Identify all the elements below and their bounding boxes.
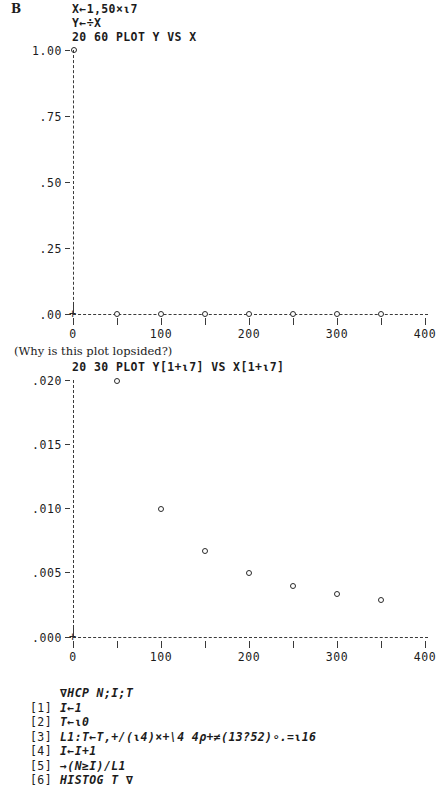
- plot-1-data-point: [334, 311, 340, 317]
- plot-1-ytick-.50: [65, 182, 70, 183]
- plot-1-xlabel-400: 400: [414, 327, 437, 341]
- plot-2-data-point: [158, 506, 164, 512]
- plot-2-data-point: [334, 591, 340, 597]
- plot-1-xtick-350: [381, 318, 382, 325]
- plot-1-data-point: [114, 311, 120, 317]
- plot-2-ylabel-.005: .005: [16, 566, 62, 580]
- plot-2-xtick-250: [293, 641, 294, 648]
- plot-1-ylabel-.50: .50: [16, 176, 62, 190]
- plot-1-ytick-1.00: [65, 50, 70, 51]
- plot-2-xtick-50: [117, 641, 118, 648]
- plot-1-data-point: [246, 311, 252, 317]
- plot-1-ylabel-1.00: 1.00: [16, 44, 62, 58]
- function-header-code: ∇HCP N;I;T: [60, 686, 133, 700]
- function-header-row: ∇HCP N;I;T: [0, 686, 440, 701]
- plot-2-ylabel-.010: .010: [16, 502, 62, 516]
- plot-2-data-point: [378, 597, 384, 603]
- plot-1-ylabel-.25: .25: [16, 242, 62, 256]
- function-line-code: HISTOG T ∇: [60, 773, 133, 787]
- function-line-row: [5] →(N≥I)/L1: [0, 759, 440, 774]
- function-line-code: I←I+1: [60, 744, 97, 758]
- plot-2-xtick-0: [73, 641, 74, 648]
- plot-2-xtick-350: [381, 641, 382, 648]
- plot-1-data-point: [290, 311, 296, 317]
- plot-1-ytick-.25: [65, 248, 70, 249]
- plot-2-ytick-.015: [65, 444, 70, 445]
- plot-2-data-point: [114, 378, 120, 384]
- function-line-number: [4]: [0, 744, 60, 758]
- plot-1-xlabel-200: 200: [238, 327, 261, 341]
- plot-1-xtick-origin-upper: [73, 303, 74, 312]
- apl-function-listing: ∇HCP N;I;T [1] I←1 [2] T←⍳0 [3] L1:T←T,+…: [0, 686, 440, 788]
- apl-plot-command-1: 20 60 PLOT Y VS X: [72, 30, 197, 44]
- plot-2-data-point: [202, 548, 208, 554]
- plot-2-xlabel-100: 100: [150, 650, 173, 664]
- plot-2-xlabel-300: 300: [326, 650, 349, 664]
- function-line-row: [1] I←1: [0, 701, 440, 716]
- plot-2-data-point: [290, 583, 296, 589]
- function-line-row: [6] HISTOG T ∇: [0, 773, 440, 788]
- plot-2-ytick-.020: [65, 380, 70, 381]
- plot-2-xtick-150: [205, 641, 206, 648]
- plot-2-xtick-100: [161, 641, 162, 648]
- plot-1-xtick-400: [425, 318, 426, 325]
- plot-1-data-point: [158, 311, 164, 317]
- plot-1-xtick-100: [161, 318, 162, 325]
- function-line-row: [4] I←I+1: [0, 744, 440, 759]
- plot-1-ylabel-.75: .75: [16, 110, 62, 124]
- plot-2-ylabel-.000: .000: [16, 631, 62, 645]
- plot-2-xtick-400: [425, 641, 426, 648]
- plot-1-xtick-0: [73, 318, 74, 325]
- function-line-code: →(N≥I)/L1: [60, 759, 126, 773]
- plot-2-ylabel-.015: .015: [16, 438, 62, 452]
- function-line-code: T←⍳0: [60, 715, 89, 729]
- plot-2-xlabel-0: 0: [69, 650, 77, 664]
- plot-1-xtick-50: [117, 318, 118, 325]
- apl-input-line-2: Y←÷X: [72, 16, 101, 30]
- function-line-row: [2] T←⍳0: [0, 715, 440, 730]
- page-marker: B: [11, 2, 21, 16]
- plot-2-xtick-origin-upper: [73, 626, 74, 635]
- function-line-number: [6]: [0, 773, 60, 787]
- plot-1-xtick-250: [293, 318, 294, 325]
- plot-1-data-point: [71, 47, 77, 53]
- plot-2-xtick-200: [249, 641, 250, 648]
- function-line-row: [3] L1:T←T,+/(⍳4)×+\4 4ρ+≠(13?52)∘.=⍳16: [0, 730, 440, 745]
- plot-2-ylabel-.020: .020: [16, 374, 62, 388]
- plot-2-y-axis: [73, 380, 74, 638]
- plot-1-ylabel-.00: .00: [16, 308, 62, 322]
- plot-2-ytick-.010: [65, 508, 70, 509]
- plot-1-ytick-.75: [65, 116, 70, 117]
- apl-plot-command-2: 20 30 PLOT Y[1+⍳7] VS X[1+⍳7]: [72, 360, 284, 374]
- plot-1-xlabel-100: 100: [150, 327, 173, 341]
- plot-1-annotation: (Why is this plot lopsided?): [14, 344, 172, 358]
- function-line-number: [5]: [0, 759, 60, 773]
- function-line-number: [2]: [0, 715, 60, 729]
- function-line-code: L1:T←T,+/(⍳4)×+\4 4ρ+≠(13?52)∘.=⍳16: [60, 730, 316, 744]
- plot-2-xlabel-200: 200: [238, 650, 261, 664]
- apl-input-line-1: X←1,50×⍳7: [72, 2, 138, 16]
- plot-2-x-axis: [68, 637, 428, 638]
- plot-1-xtick-300: [337, 318, 338, 325]
- function-line-number: [1]: [0, 701, 60, 715]
- function-line-code: I←1: [60, 701, 82, 715]
- plot-2-xtick-300: [337, 641, 338, 648]
- plot-1-data-point: [378, 311, 384, 317]
- plot-1-xlabel-0: 0: [69, 327, 77, 341]
- plot-2-data-point: [246, 570, 252, 576]
- plot-1-xtick-200: [249, 318, 250, 325]
- plot-1-data-point: [202, 311, 208, 317]
- plot-1-y-axis: [73, 50, 74, 315]
- plot-2-xlabel-400: 400: [414, 650, 437, 664]
- plot-1-xlabel-300: 300: [326, 327, 349, 341]
- plot-2-ytick-.005: [65, 572, 70, 573]
- plot-1-xtick-150: [205, 318, 206, 325]
- function-line-number: [3]: [0, 730, 60, 744]
